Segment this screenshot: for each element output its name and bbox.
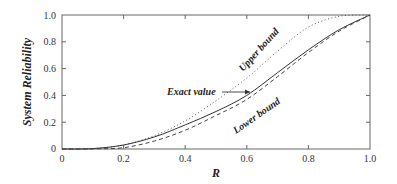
y-tick-labels: 0 0.2 0.4 0.6 0.8 1.0 (44, 10, 57, 155)
y-tick-label: 0.2 (44, 117, 57, 128)
x-ticks (124, 15, 309, 149)
y-tick-label: 0.6 (44, 63, 57, 74)
exact-value-label: Exact value (166, 86, 216, 97)
upper-bound-label: Upper bound (236, 25, 281, 73)
y-axis-title: System Reliability (20, 37, 34, 126)
x-tick-label: 0.2 (117, 153, 130, 164)
x-tick-label: 0.8 (302, 153, 315, 164)
plot-frame (62, 15, 370, 149)
y-ticks (62, 42, 370, 122)
y-tick-label: 1.0 (44, 10, 57, 21)
x-tick-label: 0.6 (241, 153, 254, 164)
x-tick-label: 0 (60, 153, 65, 164)
reliability-chart: 0 0.2 0.4 0.6 0.8 1.0 0 0.2 0.4 0.6 0.8 … (0, 0, 397, 184)
lower-bound-curve (62, 15, 370, 149)
x-tick-label: 0.4 (179, 153, 192, 164)
y-tick-label: 0.8 (44, 36, 57, 47)
upper-bound-curve (62, 15, 370, 149)
x-tick-labels: 0 0.2 0.4 0.6 0.8 1.0 (60, 153, 377, 164)
x-axis-title: R (211, 166, 220, 180)
y-tick-label: 0 (51, 143, 56, 154)
x-tick-label: 1.0 (364, 153, 377, 164)
y-tick-label: 0.4 (44, 90, 57, 101)
exact-value-curve (62, 15, 370, 149)
